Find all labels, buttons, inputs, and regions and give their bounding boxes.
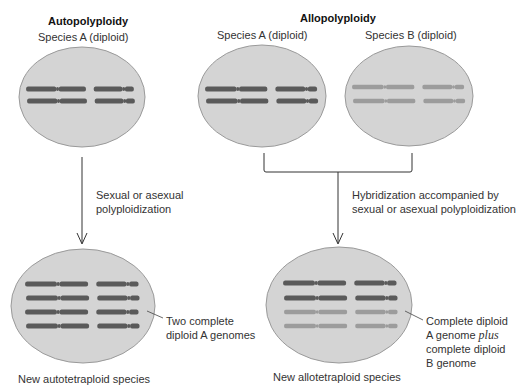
allo-arrow-label-2: sexual or asexual polyploidization	[352, 202, 516, 216]
autopolyploidy-title: Autopolyploidy	[48, 14, 128, 28]
auto-result-label: New autotetraploid species	[18, 372, 150, 386]
autotetraploid-cell	[11, 249, 163, 363]
allo-parent-b-cell	[345, 46, 473, 146]
allo-parent-a-cell	[198, 45, 326, 147]
auto-annotation-1: Two complete	[166, 314, 234, 328]
auto-annotation-2: diploid A genomes	[166, 328, 255, 342]
allo-parent-a-label: Species A (diploid)	[217, 28, 308, 42]
auto-arrow-label-2: polyploidization	[96, 202, 171, 216]
allo-annotation-2-pre: A genome	[426, 329, 479, 341]
allo-parent-b-label: Species B (diploid)	[365, 28, 457, 42]
allo-annotation-1: Complete diploid	[426, 314, 508, 328]
auto-arrow	[77, 157, 87, 244]
allo-annotation-plus: plus	[479, 328, 499, 342]
auto-arrow-label-1: Sexual or asexual	[96, 188, 183, 202]
allopolyploidy-title: Allopolyploidy	[300, 11, 376, 25]
allo-annotation-4: B genome	[426, 356, 476, 370]
allotetraploid-cell	[266, 247, 423, 363]
allo-result-label: New allotetraploid species	[273, 370, 401, 384]
auto-parent-label: Species A (diploid)	[38, 30, 129, 44]
allo-arrow-label-1: Hybridization accompanied by	[352, 188, 499, 202]
allo-annotation-3: complete diploid	[426, 342, 506, 356]
auto-parent-cell	[19, 47, 145, 147]
allo-annotation-2: A genome plus	[426, 328, 499, 342]
